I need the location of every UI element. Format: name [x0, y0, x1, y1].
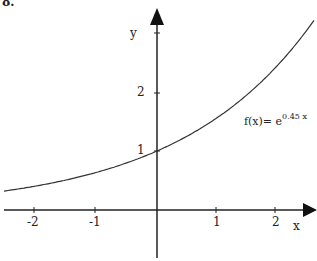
x-tick-label-2: 2 [272, 216, 280, 228]
problem-number: 8. [2, 0, 15, 8]
y-tick-label-2: 2 [137, 86, 145, 98]
function-label-base: f(x)= e [244, 115, 282, 128]
x-tick-label-1: 1 [213, 216, 221, 228]
function-curve [4, 20, 314, 191]
x-tick-label-neg1: -1 [89, 216, 101, 228]
y-tick-label-1: 1 [137, 144, 145, 156]
y-axis-label: y [130, 27, 137, 39]
ticks [34, 33, 275, 213]
function-label-exponent: 0.45 x [282, 112, 307, 121]
y-axis-arrow-icon [150, 8, 164, 25]
plot [0, 0, 317, 261]
x-axis-arrow-icon [303, 203, 317, 217]
x-tick-label-neg2: -2 [27, 216, 39, 228]
function-label: f(x)= e0.45 x [244, 111, 307, 127]
x-axis-label: x [293, 220, 300, 232]
